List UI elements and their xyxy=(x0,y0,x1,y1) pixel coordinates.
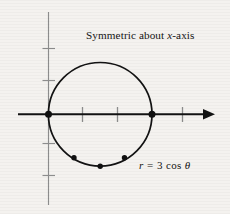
equation-label: r=3cosθ xyxy=(139,160,190,171)
point-r-max xyxy=(149,111,156,118)
point-lower-left xyxy=(71,155,76,160)
point-lower-right xyxy=(122,155,127,160)
symmetry-title-label: Symmetric about x-axis xyxy=(86,30,194,41)
point-origin xyxy=(45,111,52,118)
equation-relation-text: = xyxy=(147,159,153,171)
equation-angle-text: θ xyxy=(185,159,191,171)
equation-coefficient-text: 3 xyxy=(157,159,163,171)
polar-graph-figure: Symmetric about x-axis r=3cosθ xyxy=(0,0,230,214)
title-prefix-text: Symmetric about xyxy=(86,29,167,41)
title-suffix-text: -axis xyxy=(172,29,194,41)
x-axis-arrow-icon xyxy=(203,109,215,120)
equation-function-text: cos xyxy=(166,159,181,171)
equation-lhs-text: r xyxy=(139,159,143,171)
point-bottom xyxy=(98,164,103,169)
